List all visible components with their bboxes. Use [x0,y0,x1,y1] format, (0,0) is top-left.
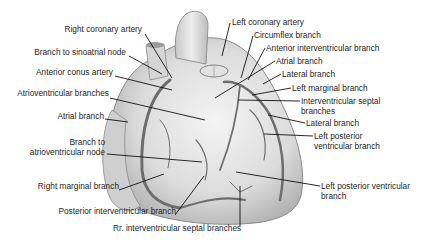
label-lateral-branch-upper: Lateral branch [282,70,335,80]
label-circumflex-branch: Circumflex branch [254,31,321,41]
label-left-marginal-branch: Left marginal branch [292,84,368,94]
label-branch-to-av-node-2: atrioventricular node [30,148,105,158]
label-branch-to-sinoatrial-node: Branch to sinoatrial node [34,48,126,58]
label-right-coronary-artery: Right coronary artery [65,25,142,35]
label-left-coronary-artery: Left coronary artery [232,18,304,28]
aorta [175,11,208,64]
label-right-marginal-branch: Right marginal branch [38,182,119,192]
label-left-posterior-ventricular-branch-1b: ventricular branch [314,142,380,152]
heart-body [107,38,303,225]
label-lateral-branch-lower: Lateral branch [306,119,359,129]
label-interventricular-septal-branches-2: branches [301,107,335,117]
label-atrioventricular-branches: Atrioventricular branches [17,89,109,99]
label-left-posterior-ventricular-branch-2b: branch [321,192,346,202]
label-atrial-branch-right: Atrial branch [276,57,323,67]
label-anterior-interventricular-branch: Anterior interventricular branch [266,44,379,54]
label-posterior-interventricular-branch: Posterior interventricular branch [58,207,176,217]
label-rr-interventricular-septal-branches: Rr. interventricular septal branches [113,224,241,234]
label-atrial-branch-left: Atrial branch [57,112,104,122]
label-anterior-conus-artery: Anterior conus artery [36,68,113,78]
heart-coronary-diagram: Right coronary artery Branch to sinoatri… [0,0,422,247]
